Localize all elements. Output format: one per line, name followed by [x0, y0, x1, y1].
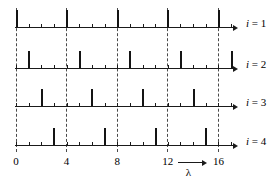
gridline-4 [66, 8, 67, 152]
tick-row-3-4 [67, 103, 68, 107]
tick-row-1-2 [41, 24, 42, 28]
tick-row-4-5 [79, 142, 80, 146]
pulse-train-figure: i = 1i = 2i = 3i = 40481216λ [0, 0, 280, 183]
tick-row-2-14 [193, 65, 194, 69]
tick-row-3-5 [79, 103, 80, 107]
series-label-equals: = [249, 96, 261, 108]
tick-row-1-6 [92, 24, 93, 28]
axis-arrow-row-1 [233, 25, 238, 31]
tick-row-3-1 [29, 103, 30, 107]
tick-row-4-8 [117, 142, 118, 146]
x-tick-label-0: 0 [1, 155, 31, 167]
tick-row-3-9 [130, 103, 131, 107]
tick-row-2-16 [218, 65, 219, 69]
gridline-12 [167, 8, 168, 152]
gridline-8 [117, 8, 118, 152]
tick-row-1-3 [54, 24, 55, 28]
x-tick-label-4: 4 [52, 155, 82, 167]
series-label-equals: = [249, 135, 261, 147]
tick-row-1-1 [29, 24, 30, 28]
tick-row-3-16 [218, 103, 219, 107]
series-label-index: 2 [261, 58, 267, 70]
tick-row-1-13 [180, 24, 181, 28]
tick-row-2-4 [67, 65, 68, 69]
tick-row-2-0 [16, 65, 17, 69]
bar-row-2-x-13 [180, 51, 182, 68]
tick-row-4-13 [180, 142, 181, 146]
tick-row-3-0 [16, 103, 17, 107]
bar-row-1-x-12 [167, 10, 169, 27]
x-tick-label-12: 12 [153, 155, 183, 167]
tick-row-2-8 [117, 65, 118, 69]
series-label-2: i = 2 [246, 58, 266, 70]
axis-arrow-row-2 [233, 66, 238, 72]
tick-row-2-6 [92, 65, 93, 69]
series-label-3: i = 3 [246, 96, 266, 108]
tick-row-2-10 [143, 65, 144, 69]
tick-row-4-2 [41, 142, 42, 146]
axis-line-row-4 [15, 145, 233, 146]
bar-row-3-x-2 [41, 89, 43, 106]
lambda-arrow [178, 162, 206, 163]
bar-row-1-x-16 [218, 10, 220, 27]
tick-row-4-6 [92, 142, 93, 146]
bar-row-1-x-0 [16, 10, 18, 27]
tick-row-4-9 [130, 142, 131, 146]
axis-arrow-row-3 [233, 104, 238, 110]
gridline-16 [218, 8, 219, 152]
x-tick-label-16: 16 [203, 155, 233, 167]
tick-row-4-17 [231, 142, 232, 146]
gridline-0 [16, 8, 17, 152]
series-label-index: 3 [261, 96, 267, 108]
tick-row-1-7 [105, 24, 106, 28]
tick-row-1-10 [143, 24, 144, 28]
bar-row-4-x-3 [53, 128, 55, 145]
series-label-equals: = [249, 17, 261, 29]
tick-row-3-8 [117, 103, 118, 107]
tick-row-3-3 [54, 103, 55, 107]
tick-row-3-17 [231, 103, 232, 107]
axis-line-row-2 [15, 68, 233, 69]
bar-row-2-x-17 [231, 51, 233, 68]
bar-row-3-x-6 [91, 89, 93, 106]
tick-row-4-12 [168, 142, 169, 146]
axis-arrow-row-4 [233, 143, 238, 149]
tick-row-2-7 [105, 65, 106, 69]
tick-row-2-12 [168, 65, 169, 69]
tick-row-3-13 [180, 103, 181, 107]
tick-row-4-4 [67, 142, 68, 146]
series-label-equals: = [249, 58, 261, 70]
series-label-4: i = 4 [246, 135, 266, 147]
tick-row-2-15 [206, 65, 207, 69]
axis-line-row-1 [15, 27, 233, 28]
tick-row-4-0 [16, 142, 17, 146]
bar-row-2-x-1 [28, 51, 30, 68]
bar-row-1-x-4 [66, 10, 68, 27]
tick-row-4-1 [29, 142, 30, 146]
tick-row-1-14 [193, 24, 194, 28]
tick-row-3-11 [155, 103, 156, 107]
bar-row-4-x-11 [155, 128, 157, 145]
tick-row-3-15 [206, 103, 207, 107]
bar-row-3-x-10 [142, 89, 144, 106]
axis-line-row-3 [15, 106, 233, 107]
tick-row-2-3 [54, 65, 55, 69]
tick-row-1-17 [231, 24, 232, 28]
series-label-index: 1 [261, 17, 267, 29]
tick-row-3-7 [105, 103, 106, 107]
x-tick-label-8: 8 [102, 155, 132, 167]
bar-row-1-x-8 [117, 10, 119, 27]
series-label-index: 4 [261, 135, 267, 147]
lambda-arrow-shaft [178, 162, 202, 163]
x-axis-label: λ [186, 166, 191, 178]
tick-row-4-10 [143, 142, 144, 146]
tick-row-1-9 [130, 24, 131, 28]
tick-row-3-12 [168, 103, 169, 107]
bar-row-4-x-15 [205, 128, 207, 145]
bar-row-3-x-14 [193, 89, 195, 106]
series-label-1: i = 1 [246, 17, 266, 29]
bar-row-4-x-7 [104, 128, 106, 145]
tick-row-1-15 [206, 24, 207, 28]
plot-area: i = 1i = 2i = 3i = 40481216λ [0, 0, 280, 183]
lambda-arrow-head [202, 160, 207, 166]
